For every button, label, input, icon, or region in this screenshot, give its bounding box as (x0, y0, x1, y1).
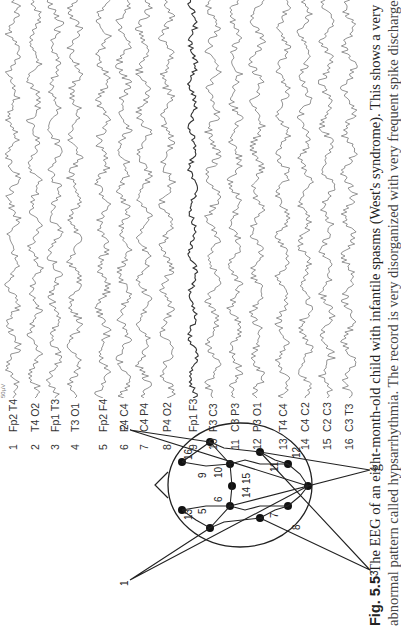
channel-label: 10F3 C3 (206, 403, 220, 450)
calibration-mark: 50µV (0, 384, 6, 398)
figure-caption: Fig. 5.5 The EEG of an eight-month-old c… (366, 0, 384, 626)
channel-label: 12P3 O1 (250, 402, 264, 450)
channel-label: 1Fp2 T4 (6, 399, 20, 450)
channel-label: 3Fp1 T3 (48, 399, 62, 450)
figure-caption-line2: abnormal pattern called hypsarrhythmia. … (384, 0, 401, 626)
channel-label: 2T4 O2 (28, 403, 42, 450)
channel-label: 14C4 C2 (298, 402, 312, 450)
svg-text:5: 5 (197, 508, 208, 514)
channel-label: 6F4 C4 (117, 403, 131, 450)
rotated-figure-page: 1 2 3 4 59 610 1415 711 812 1316 1Fp2 T4… (0, 0, 401, 626)
svg-text:11: 11 (269, 461, 280, 472)
figure-number: Fig. 5.5 (367, 576, 383, 626)
channel-label: 9Fp1 F3 (186, 399, 200, 450)
channel-label: 15C2 C3 (320, 402, 334, 450)
svg-text:10: 10 (213, 466, 224, 478)
channel-label: 5Fp2 F4 (96, 399, 110, 450)
channel-labels: 1Fp2 T4 2T4 O2 3Fp1 T3 4T3 O1 5Fp2 F4 6F… (0, 390, 370, 450)
channel-label: 4T3 O1 (68, 403, 82, 450)
svg-text:14: 14 (241, 486, 252, 498)
svg-text:7: 7 (269, 512, 280, 518)
eeg-waveform-icon (0, 0, 370, 398)
eeg-traces: 50µV (0, 0, 370, 398)
caption-text: The EEG of an eight-month-old child with… (367, 5, 383, 573)
svg-text:6: 6 (213, 496, 224, 502)
channel-label: 7C4 P4 (137, 403, 151, 450)
channel-label: 8P4 O2 (160, 402, 174, 450)
svg-text:15: 15 (241, 472, 252, 484)
svg-text:9: 9 (197, 472, 208, 478)
pointer-label-1: 1 (119, 580, 130, 586)
channel-label: 11C3 P3 (228, 403, 242, 450)
svg-text:8: 8 (291, 524, 302, 530)
svg-text:16: 16 (183, 448, 194, 460)
svg-text:13: 13 (183, 508, 194, 520)
channel-label: 13T4 C4 (276, 403, 290, 450)
channel-label: 16C3 T3 (342, 404, 356, 450)
